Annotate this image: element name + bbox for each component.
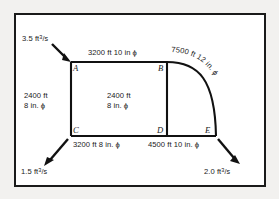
outflow-E-denominator: /s	[224, 167, 230, 176]
pipe-AC-label: 2400 ft 8 in. ϕ	[24, 91, 48, 110]
pipe-network-figure: 7500 ft 12 in. ϕ A B C D E 3200 ft 10 in…	[0, 0, 279, 199]
outflow-C-denominator: /s	[41, 167, 47, 176]
node-label-A: A	[73, 63, 78, 73]
outflow-C-value: 1.5	[21, 167, 32, 176]
inflow-A-denominator: /s	[42, 34, 48, 43]
node-label-C: C	[73, 125, 79, 135]
node-label-B: B	[158, 63, 163, 73]
pipe-AC-label-line2: 8 in. ϕ	[24, 101, 45, 110]
pipe-AC-label-line1: 2400 ft	[24, 91, 48, 100]
inflow-A-value: 3.5	[22, 34, 33, 43]
pipe-BD-label-line2: 8 in. ϕ	[107, 101, 128, 110]
pipe-DE-label: 4500 ft 10 in. ϕ	[148, 140, 199, 149]
pipe-BD-label-line1: 2400 ft	[107, 91, 131, 100]
inflow-label-A: 3.5 ft3/s	[22, 33, 48, 44]
outflow-label-E: 2.0 ft3/s	[204, 166, 230, 177]
node-label-D: D	[157, 125, 163, 135]
pipe-CD-label: 3200 ft 8 in. ϕ	[73, 140, 120, 149]
outflow-E-value: 2.0	[204, 167, 215, 176]
pipe-AB-label: 3200 ft 10 in ϕ	[88, 48, 137, 57]
pipe-BD-label: 2400 ft 8 in. ϕ	[107, 91, 131, 110]
node-label-E: E	[205, 125, 210, 135]
outflow-label-C: 1.5 ft3/s	[21, 166, 47, 177]
